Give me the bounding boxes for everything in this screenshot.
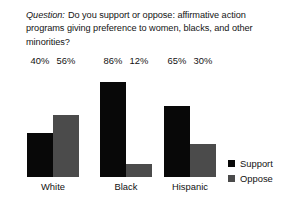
bar-rect-hispanic-oppose <box>190 144 216 177</box>
bar-white-support: 40% <box>27 67 53 177</box>
bar-value-black-support: 86% <box>104 56 123 66</box>
legend-swatch-support-icon <box>228 160 235 167</box>
bar-value-hispanic-oppose: 30% <box>194 56 213 66</box>
bar-rect-white-support <box>27 133 53 177</box>
bar-rect-hispanic-support <box>164 106 190 178</box>
legend-item-oppose: Oppose <box>228 171 273 186</box>
category-label-white: White <box>27 181 79 192</box>
bar-hispanic-support: 65% <box>164 67 190 177</box>
bar-value-hispanic-support: 65% <box>168 56 187 66</box>
bar-rect-black-oppose <box>126 164 152 177</box>
bar-black-support: 86% <box>100 67 126 177</box>
bar-value-black-oppose: 12% <box>130 56 149 66</box>
legend-swatch-oppose-icon <box>228 175 235 182</box>
bar-hispanic-oppose: 30% <box>190 67 216 177</box>
category-label-hispanic: Hispanic <box>164 181 216 192</box>
bar-group-black: 86% 12% Black <box>100 67 152 177</box>
legend-item-support: Support <box>228 156 273 171</box>
bar-black-oppose: 12% <box>126 67 152 177</box>
bar-rect-white-oppose <box>53 115 79 177</box>
bar-value-white-support: 40% <box>31 56 50 66</box>
chart-figure: Question:Do you support or oppose: affir… <box>0 0 301 213</box>
bar-group-hispanic: 65% 30% Hispanic <box>164 67 216 177</box>
chart-legend: Support Oppose <box>228 156 273 186</box>
legend-label-support: Support <box>240 159 273 169</box>
bar-white-oppose: 56% <box>53 67 79 177</box>
bar-rect-black-support <box>100 82 126 177</box>
legend-label-oppose: Oppose <box>240 174 273 184</box>
bar-group-white: 40% 56% White <box>27 67 79 177</box>
category-label-black: Black <box>100 181 152 192</box>
bar-value-white-oppose: 56% <box>57 56 76 66</box>
